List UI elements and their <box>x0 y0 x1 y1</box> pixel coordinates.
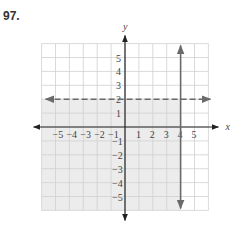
y-axis-label: y <box>122 21 128 32</box>
y-tick-label: 4 <box>116 66 121 77</box>
y-tick-label: −5 <box>112 192 123 203</box>
y-tick-label: −4 <box>112 178 123 189</box>
x-tick-label: −4 <box>66 129 77 140</box>
y-tick-label: 3 <box>116 80 121 91</box>
y-tick-label: −1 <box>112 136 123 147</box>
x-tick-label: −3 <box>80 129 91 140</box>
inequality-graph: xy−5−4−3−2−11234554321−1−2−3−4−5 <box>0 0 243 233</box>
x-axis-label: x <box>224 121 230 132</box>
y-tick-label: 5 <box>116 53 121 64</box>
x-tick-label: 2 <box>150 129 155 140</box>
x-tick-label: 5 <box>192 129 197 140</box>
x-tick-label: −5 <box>53 129 64 140</box>
x-tick-label: 3 <box>164 129 169 140</box>
y-tick-label: −3 <box>112 164 123 175</box>
y-tick-label: 1 <box>116 108 121 119</box>
x-tick-label: −2 <box>94 129 105 140</box>
x-tick-label: 1 <box>136 129 141 140</box>
y-tick-label: −2 <box>112 150 123 161</box>
